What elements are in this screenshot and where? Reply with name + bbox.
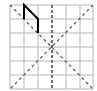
grid-diagram (0, 0, 97, 91)
